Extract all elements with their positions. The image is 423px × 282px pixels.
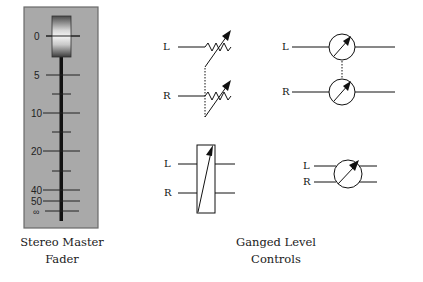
scale-label-5: 5: [34, 70, 40, 81]
scale-label-0: 0: [34, 31, 40, 42]
label-L: L: [282, 41, 289, 52]
label-R: R: [303, 176, 311, 187]
ganged-caption-line1: Ganged Level: [226, 234, 326, 251]
scale-label-50: 50: [31, 196, 43, 207]
scale-label-10: 10: [31, 108, 43, 119]
arrow-head-icon: [222, 80, 231, 91]
ganged-caption: Ganged Level Controls: [226, 234, 326, 268]
scale-label-20: 20: [31, 146, 43, 157]
fader-caption-line1: Stereo Master: [10, 234, 114, 251]
label-L: L: [164, 158, 171, 169]
fader-caption-line2: Fader: [10, 251, 114, 268]
single-rotary-gang: [314, 160, 377, 188]
label-L: L: [163, 41, 170, 52]
label-R: R: [164, 187, 172, 198]
label-R: R: [163, 90, 171, 101]
fader-track: [60, 56, 64, 221]
arrow-head-icon: [222, 30, 231, 41]
ganged-caption-line2: Controls: [226, 251, 326, 268]
scale-label-infinity: ∞: [33, 207, 39, 217]
scale-label-40: 40: [31, 185, 43, 196]
ganged-slider-box: [178, 145, 235, 213]
label-R: R: [282, 86, 290, 97]
fader-caption: Stereo Master Fader: [10, 234, 114, 268]
dual-variable-resistor: [178, 33, 231, 117]
dual-rotary-pot: [292, 34, 395, 105]
label-L: L: [303, 160, 310, 171]
